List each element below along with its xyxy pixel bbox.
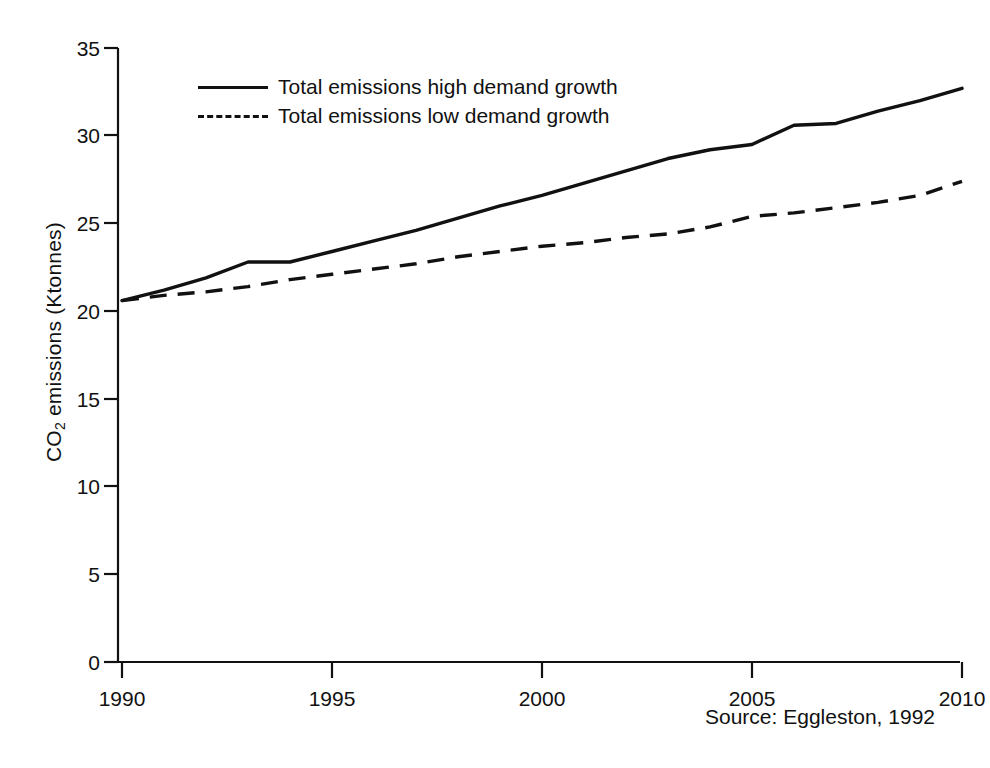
legend-swatch-dashed-line-icon — [196, 109, 270, 123]
legend-label: Total emissions high demand growth — [270, 76, 618, 97]
x-tick-label: 2000 — [482, 688, 602, 709]
chart-legend: Total emissions high demand growth Total… — [196, 72, 666, 130]
legend-item-high-demand: Total emissions high demand growth — [196, 72, 666, 101]
legend-swatch-solid-line-icon — [196, 80, 270, 94]
x-tick-label: 1990 — [62, 688, 182, 709]
legend-item-low-demand: Total emissions low demand growth — [196, 101, 666, 130]
source-attribution: Source: Eggleston, 1992 — [705, 706, 935, 727]
legend-label: Total emissions low demand growth — [270, 105, 610, 126]
x-tick-label: 1995 — [272, 688, 392, 709]
